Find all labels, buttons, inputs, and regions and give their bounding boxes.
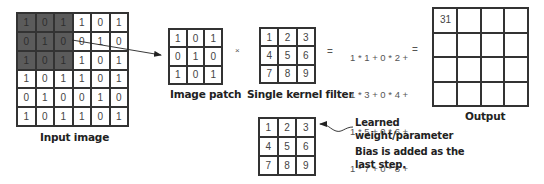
output-cell — [457, 8, 481, 33]
kernel-cell: 6 — [297, 46, 315, 64]
output-cell — [504, 82, 528, 107]
output-cell — [457, 33, 481, 58]
input-cell: 0 — [36, 13, 55, 32]
learned-cell: 7 — [259, 156, 278, 175]
input-cell: 1 — [110, 51, 129, 70]
note-line: weight/parameter — [355, 130, 453, 143]
input-cell: 0 — [73, 88, 92, 107]
input-cell: 0 — [17, 32, 36, 51]
learned-cell: 4 — [259, 137, 278, 156]
formula-line: 1 * 1 + 0 * 2 + — [350, 52, 408, 64]
kernel-filter-label: Single kernel filter — [247, 88, 353, 100]
kernel-cell: 8 — [278, 65, 296, 83]
input-cell: 1 — [73, 70, 92, 89]
input-cell: 0 — [91, 51, 110, 70]
kernel-cell: 9 — [297, 65, 315, 83]
input-cell: 0 — [91, 107, 110, 126]
output-cell — [481, 57, 505, 82]
input-cell: 0 — [110, 88, 129, 107]
patch-cell: 1 — [204, 29, 222, 47]
patch-cell: 1 — [169, 29, 187, 47]
kernel-cell: 3 — [297, 28, 315, 46]
learned-weight-arrow — [320, 124, 353, 131]
equals-sign-1: = — [327, 46, 333, 57]
image-patch-grid: 1 0 1 0 1 0 1 0 1 — [168, 28, 223, 85]
output-cell — [457, 57, 481, 82]
bias-note: Bias is added as the last step. — [355, 146, 464, 171]
input-cell: 0 — [110, 32, 129, 51]
kernel-cell: 7 — [260, 65, 278, 83]
learned-cell: 9 — [296, 156, 315, 175]
output-cell — [481, 33, 505, 58]
output-cell — [481, 8, 505, 33]
input-cell: 1 — [54, 70, 73, 89]
output-grid: 31 — [432, 7, 529, 107]
kernel-cell: 4 — [260, 46, 278, 64]
learned-cell: 3 — [296, 118, 315, 137]
input-cell: 0 — [54, 88, 73, 107]
output-cell — [481, 82, 505, 107]
equals-sign-2: = — [412, 44, 418, 55]
learned-cell: 1 — [259, 118, 278, 137]
output-cell — [433, 82, 457, 107]
input-cell: 0 — [91, 13, 110, 32]
multiply-sign: × — [235, 46, 240, 55]
input-image-label: Input image — [40, 131, 109, 143]
image-patch-label: Image patch — [170, 88, 241, 100]
output-cell — [457, 82, 481, 107]
patch-cell: 0 — [204, 47, 222, 65]
input-cell: 1 — [17, 13, 36, 32]
learned-kernel-grid: 1 2 3 4 5 6 7 8 9 — [258, 117, 316, 176]
input-cell: 0 — [73, 32, 92, 51]
kernel-cell: 1 — [260, 28, 278, 46]
input-cell: 0 — [17, 88, 36, 107]
input-cell: 1 — [54, 13, 73, 32]
patch-cell: 1 — [187, 47, 205, 65]
output-cell — [504, 33, 528, 58]
output-cell — [504, 8, 528, 33]
formula-line: 1 * 3 + 0 * 4 + — [350, 89, 408, 101]
kernel-cell: 2 — [278, 28, 296, 46]
patch-cell: 1 — [169, 66, 187, 84]
input-cell: 1 — [91, 88, 110, 107]
input-cell: 1 — [110, 70, 129, 89]
learned-cell: 8 — [278, 156, 297, 175]
learned-weight-note: Learned weight/parameter — [355, 117, 453, 142]
input-cell: 1 — [110, 13, 129, 32]
learned-cell: 6 — [296, 137, 315, 156]
note-line: Learned — [355, 117, 453, 130]
input-cell: 1 — [54, 51, 73, 70]
input-cell: 0 — [36, 51, 55, 70]
input-cell: 1 — [54, 107, 73, 126]
patch-cell: 0 — [187, 66, 205, 84]
kernel-cell: 5 — [278, 46, 296, 64]
input-cell: 1 — [17, 70, 36, 89]
input-image-grid: 1 0 1 1 0 1 0 1 0 0 1 0 1 0 1 1 0 1 1 0 … — [16, 12, 129, 127]
input-cell: 1 — [73, 51, 92, 70]
input-cell: 1 — [36, 32, 55, 51]
patch-cell: 0 — [169, 47, 187, 65]
note-line: last step. — [355, 159, 464, 172]
input-cell: 0 — [54, 32, 73, 51]
learned-cell: 5 — [278, 137, 297, 156]
input-cell: 0 — [36, 107, 55, 126]
output-cell: 31 — [433, 8, 457, 33]
learned-cell: 2 — [278, 118, 297, 137]
input-cell: 0 — [36, 70, 55, 89]
input-cell: 1 — [36, 88, 55, 107]
input-cell: 1 — [73, 13, 92, 32]
note-line: Bias is added as the — [355, 146, 464, 159]
input-cell: 1 — [17, 107, 36, 126]
input-cell: 0 — [91, 70, 110, 89]
patch-cell: 1 — [204, 66, 222, 84]
output-label: Output — [465, 110, 505, 122]
input-cell: 1 — [73, 107, 92, 126]
kernel-filter-grid: 1 2 3 4 5 6 7 8 9 — [259, 27, 316, 84]
patch-cell: 0 — [187, 29, 205, 47]
output-cell — [433, 33, 457, 58]
input-cell: 1 — [110, 107, 129, 126]
input-cell: 1 — [17, 51, 36, 70]
input-cell: 1 — [91, 32, 110, 51]
output-cell — [504, 57, 528, 82]
output-cell — [433, 57, 457, 82]
